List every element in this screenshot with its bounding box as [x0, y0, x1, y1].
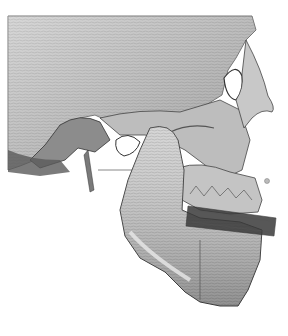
skull-ct-render — [0, 0, 288, 336]
fiducial-marker — [265, 179, 270, 184]
skull-illustration — [0, 0, 288, 336]
